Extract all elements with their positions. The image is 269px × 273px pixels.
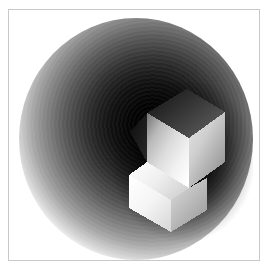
figure-canvas: Shaded isometric solid on spherical back… [0, 0, 269, 273]
solid-geometry [9, 10, 260, 261]
isometric-solid [9, 10, 260, 261]
figure-frame [8, 9, 260, 261]
facet-upper-left-notch [130, 113, 147, 162]
